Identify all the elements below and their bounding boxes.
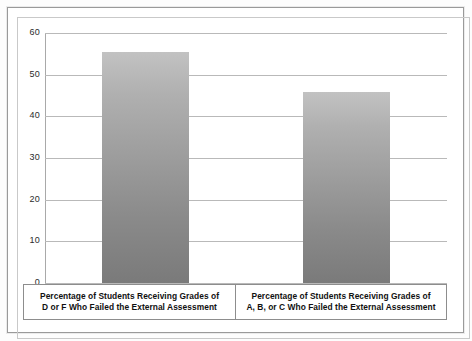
y-tick-label-40: 40 — [2, 111, 40, 120]
bar-0 — [102, 52, 189, 283]
category-label-cell-0: Percentage of Students Receiving Grades … — [24, 285, 235, 319]
category-label-0-line-1: D or F Who Failed the External Assessmen… — [40, 302, 219, 313]
category-label-0-line-0: Percentage of Students Receiving Grades … — [40, 291, 219, 302]
category-label-1-line-1: A, B, or C Who Failed the External Asses… — [246, 302, 435, 313]
y-tick-label-60: 60 — [2, 28, 40, 37]
y-tick-label-20: 20 — [2, 195, 40, 204]
y-axis-labels: 0102030405060 — [0, 33, 40, 284]
category-label-row: Percentage of Students Receiving Grades … — [23, 284, 447, 320]
y-tick-label-30: 30 — [2, 153, 40, 162]
category-label-1-line-0: Percentage of Students Receiving Grades … — [246, 291, 435, 302]
y-tick-label-10: 10 — [2, 236, 40, 245]
bars-container — [45, 33, 447, 283]
category-label-cell-1: Percentage of Students Receiving Grades … — [235, 285, 446, 319]
bar-1 — [303, 92, 390, 283]
y-tick-label-50: 50 — [2, 70, 40, 79]
